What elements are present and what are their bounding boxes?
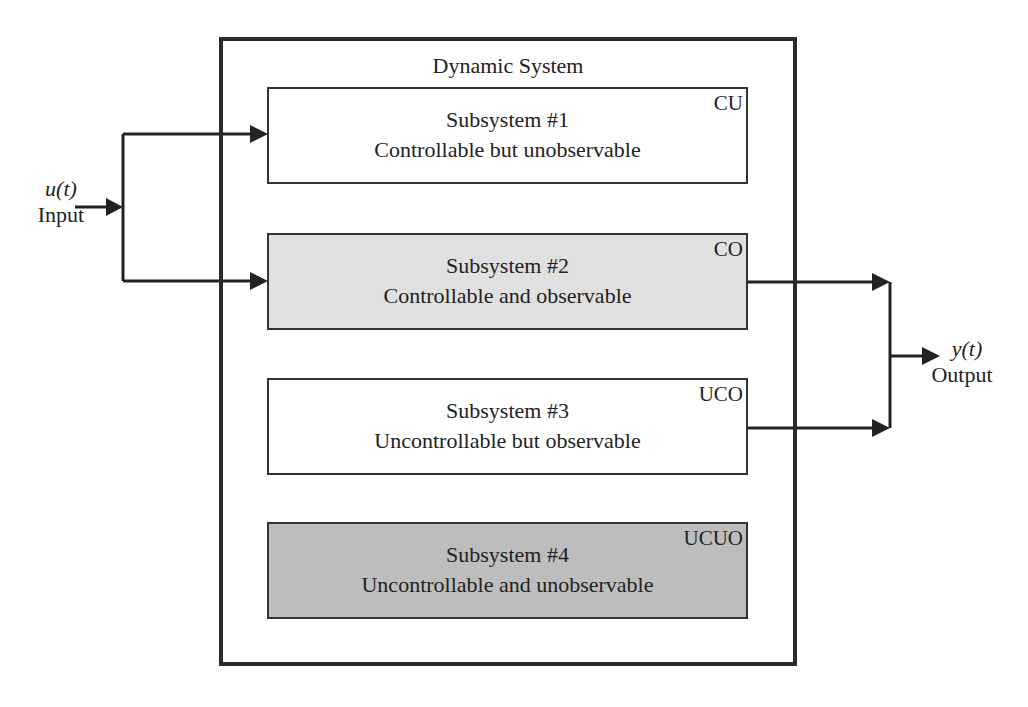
output-symbol: y(t) [922,336,1002,362]
output-label-group: y(t) Output [922,336,1002,388]
subsystem-4-tag: UCUO [683,526,743,550]
input-label: Input [26,202,96,228]
subsystem-1-block: Subsystem #1 Controllable but unobservab… [267,87,748,184]
subsystem-2-tag: CO [714,237,743,261]
subsystem-2-description: Controllable and observable [269,281,746,311]
subsystem-3-block: Subsystem #3 Uncontrollable but observab… [267,378,748,475]
subsystem-2-block: Subsystem #2 Controllable and observable… [267,233,748,330]
subsystem-3-name: Subsystem #3 [269,396,746,426]
subsystem-1-description: Controllable but unobservable [269,135,746,165]
subsystem-1-name: Subsystem #1 [269,105,746,135]
subsystem-2-name: Subsystem #2 [269,251,746,281]
subsystem-3-tag: UCO [699,382,743,406]
subsystem-4-name: Subsystem #4 [269,540,746,570]
subsystem-1-tag: CU [714,91,743,115]
output-label: Output [922,362,1002,388]
subsystem-3-description: Uncontrollable but observable [269,426,746,456]
subsystem-4-description: Uncontrollable and unobservable [269,570,746,600]
input-label-group: u(t) Input [26,176,96,228]
subsystem-4-block: Subsystem #4 Uncontrollable and unobserv… [267,522,748,619]
input-symbol: u(t) [26,176,96,202]
dynamic-system-title: Dynamic System [219,53,797,79]
